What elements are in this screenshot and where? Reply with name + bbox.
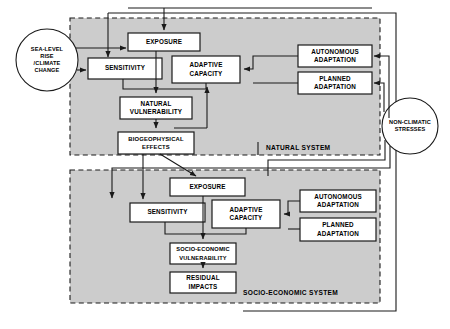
natural-vulnerability-box[interactable] <box>120 97 192 119</box>
biogeophysical-effects-box[interactable] <box>118 132 194 154</box>
sensitivity-socio-box[interactable] <box>130 203 205 222</box>
sensitivity-natural-box[interactable] <box>88 58 162 79</box>
residual-impacts-box[interactable] <box>170 272 236 293</box>
socio-economic-vulnerability-box[interactable] <box>170 243 236 264</box>
autonomous-adaptation-natural-box[interactable] <box>298 45 372 67</box>
exposure-natural-box[interactable] <box>128 33 200 51</box>
framework-diagram <box>0 0 450 329</box>
exposure-socio-box[interactable] <box>170 178 245 196</box>
adaptive-capacity-natural-box[interactable] <box>172 56 240 83</box>
planned-adaptation-socio-box[interactable] <box>300 218 376 241</box>
planned-adaptation-natural-box[interactable] <box>298 72 372 94</box>
autonomous-adaptation-socio-box[interactable] <box>300 190 376 212</box>
sea-level-rise-climate-change-circle <box>16 29 78 91</box>
adaptive-capacity-socio-box[interactable] <box>212 200 280 228</box>
non-climatic-stresses-circle <box>382 98 438 154</box>
diagram-canvas: SEA-LEVEL RISE /CLIMATE CHANGE NON-CLIMA… <box>0 0 450 329</box>
